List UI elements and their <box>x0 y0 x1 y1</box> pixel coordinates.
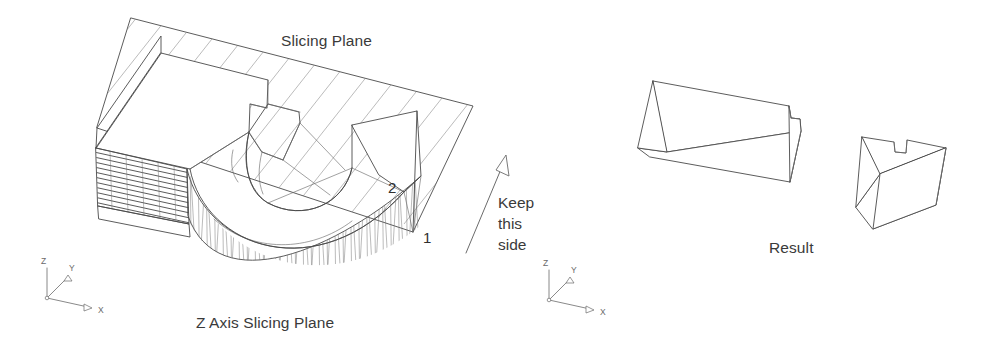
sliced-part-view: 2 1 Slicing Plane Z Axis Slicing Plane <box>14 0 658 331</box>
band-outer-top-curve <box>190 169 404 248</box>
figure-container: 2 1 Slicing Plane Z Axis Slicing Plane K… <box>0 0 984 353</box>
inner-island-edge-a <box>268 104 300 112</box>
right-triad-origin-marker <box>547 298 551 302</box>
right-triad-x-arrowhead <box>586 306 594 313</box>
left-triad-y-label: Y <box>69 263 75 273</box>
left-triad-y-arrowhead <box>64 275 72 281</box>
keep-this-side-arrowhead <box>496 155 509 176</box>
left-triad-x-axis <box>47 298 88 307</box>
keep-label-line-1: Keep <box>498 194 534 211</box>
left-triad-x-label: X <box>98 305 104 315</box>
callout-2-label: 2 <box>388 179 396 196</box>
right-triad-x-axis <box>549 300 590 309</box>
technical-illustration: 2 1 Slicing Plane Z Axis Slicing Plane K… <box>0 0 984 353</box>
result-label: Result <box>769 239 814 256</box>
right-axis-triad: Z Y X <box>543 258 606 317</box>
right-triad-y-arrowhead <box>566 277 574 283</box>
left-triad-z-label: Z <box>41 256 46 266</box>
right-triad-z-label: Z <box>543 258 548 268</box>
left-triad-origin-marker <box>45 296 49 300</box>
part-top-face-right-arm <box>352 111 421 192</box>
band-surface-line <box>214 219 352 245</box>
keep-this-side-annotation: Keep this side <box>466 155 534 253</box>
right-triad-x-label: X <box>600 307 606 317</box>
z-axis-slicing-plane-label: Z Axis Slicing Plane <box>196 314 334 331</box>
right-triad-y-label: Y <box>571 265 577 275</box>
result-view: Result <box>638 81 946 256</box>
result-small-notch <box>894 140 907 153</box>
inner-island-edge-d <box>249 132 262 152</box>
callout-1-label: 1 <box>423 229 431 246</box>
inner-channel-diag-b <box>283 160 330 195</box>
part-upper-body <box>96 36 421 192</box>
left-axis-triad: Z Y X <box>41 256 104 315</box>
left-triad-x-arrowhead <box>84 304 92 311</box>
inner-channel-diag-a <box>300 123 345 170</box>
inner-island-edge-b <box>283 123 300 160</box>
inner-island-edge-c <box>262 152 283 160</box>
result-piece-small <box>856 137 946 229</box>
slicing-plane-label: Slicing Plane <box>281 32 372 49</box>
inner-channel-wall <box>246 125 352 211</box>
result-piece-large <box>638 81 801 182</box>
zigzag-wall-outline <box>187 169 421 260</box>
keep-label-line-2: this <box>498 215 522 232</box>
keep-label-line-3: side <box>498 236 526 253</box>
